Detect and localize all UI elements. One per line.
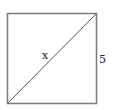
side-length-label: 5	[99, 53, 106, 66]
square-diagram: x 5	[0, 0, 113, 110]
diagonal-line	[8, 14, 97, 104]
diagonal-label: x	[42, 49, 49, 62]
